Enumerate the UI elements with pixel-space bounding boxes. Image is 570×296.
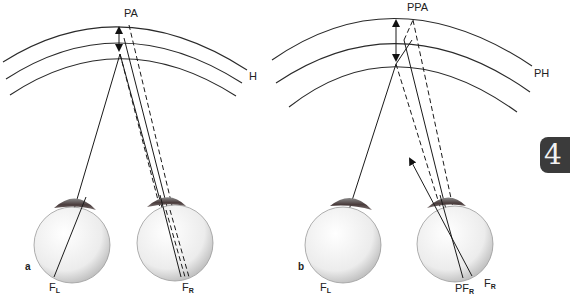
chapter-tab: 4 <box>540 137 570 173</box>
panel-b: PPA PH b FL PFR FR <box>272 1 549 295</box>
left-eye-b <box>305 198 381 283</box>
pseudo-horopter-arc-middle <box>276 44 530 92</box>
eyeball <box>34 207 110 283</box>
label-fovea-left-a: FL <box>49 281 61 294</box>
right-eye-a <box>137 195 213 281</box>
horopter-arc-outer <box>3 27 247 70</box>
label-pseudo-horopter: PH <box>534 67 549 79</box>
label-ppa: PPA <box>407 1 429 13</box>
panel-label-a: a <box>25 261 31 272</box>
label-fovea-right-b: FR <box>484 277 496 290</box>
panel-a: PA H a FL FR <box>3 7 257 294</box>
label-horopter: H <box>249 70 257 82</box>
label-pa: PA <box>124 7 139 19</box>
label-pseudo-fovea-right-b: PFR <box>455 282 474 295</box>
right-eye-b <box>417 195 493 282</box>
panel-label-b: b <box>298 261 304 272</box>
label-fovea-right-a: FR <box>182 281 194 294</box>
pseudo-horopter-arc-inner <box>289 67 517 112</box>
right-eye-ray-dashed-b-3 <box>404 20 413 40</box>
left-eye-a <box>34 197 110 283</box>
pseudo-horopter-arc-outer <box>272 18 532 66</box>
eyeball <box>305 207 381 283</box>
label-fovea-left-b: FL <box>320 281 332 294</box>
